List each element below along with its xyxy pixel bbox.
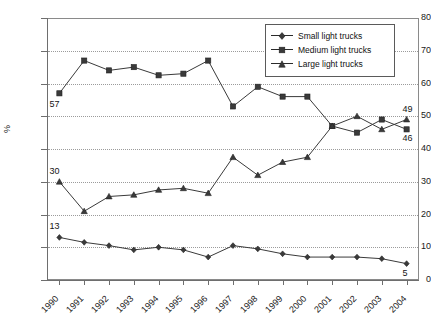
y-tick-mark	[41, 18, 47, 19]
x-tick-label: 2003	[362, 293, 383, 314]
x-tick-label: 1997	[213, 293, 234, 314]
y-tick-label: 0	[389, 274, 431, 284]
y-axis-line	[47, 18, 48, 280]
x-tick-label: 1999	[263, 293, 284, 314]
x-tick-mark	[332, 280, 333, 285]
gridline	[48, 149, 418, 150]
y-tick-label: 10	[389, 241, 431, 251]
y-tick-mark	[41, 84, 47, 85]
y-tick-mark	[41, 149, 47, 150]
x-tick-label: 1994	[139, 293, 160, 314]
data-point-label: 13	[49, 221, 59, 231]
legend-label-large: Large light trucks	[298, 59, 363, 69]
y-tick-label: 20	[389, 209, 431, 219]
y-tick-label: 80	[389, 12, 431, 22]
legend-label-medium: Medium light trucks	[298, 45, 371, 55]
y-tick-mark	[41, 182, 47, 183]
gridline	[48, 215, 418, 216]
x-tick-mark	[283, 280, 284, 285]
x-tick-label: 2001	[312, 293, 333, 314]
x-tick-label: 1993	[114, 293, 135, 314]
square-marker-icon	[271, 44, 293, 56]
x-tick-label: 1996	[188, 293, 209, 314]
y-tick-mark	[41, 116, 47, 117]
x-tick-mark	[84, 280, 85, 285]
data-point-label: 30	[49, 166, 59, 176]
diamond-marker-icon	[271, 30, 293, 42]
data-point-label: 46	[403, 133, 413, 143]
legend-item-medium[interactable]: Medium light trucks	[271, 43, 389, 57]
x-tick-label: 2002	[337, 293, 358, 314]
x-tick-mark	[357, 280, 358, 285]
x-tick-mark	[382, 280, 383, 285]
x-tick-mark	[233, 280, 234, 285]
triangle-marker-icon	[271, 58, 293, 70]
y-tick-label: 30	[389, 176, 431, 186]
x-tick-mark	[109, 280, 110, 285]
y-tick-mark	[41, 247, 47, 248]
x-tick-mark	[208, 280, 209, 285]
x-tick-mark	[59, 280, 60, 285]
data-point-label: 5	[403, 268, 408, 278]
x-tick-mark	[407, 280, 408, 285]
legend-label-small: Small light trucks	[298, 31, 362, 41]
y-axis-title: %	[2, 125, 12, 133]
x-tick-label: 1991	[64, 293, 85, 314]
legend: Small light trucks Medium light trucks L…	[265, 24, 395, 77]
y-tick-mark	[41, 51, 47, 52]
x-tick-mark	[258, 280, 259, 285]
y-tick-label: 40	[389, 143, 431, 153]
gridline	[48, 247, 418, 248]
x-tick-label: 2000	[288, 293, 309, 314]
x-tick-mark	[134, 280, 135, 285]
y-tick-label: 60	[389, 78, 431, 88]
y-tick-label: 70	[389, 45, 431, 55]
y-tick-mark	[41, 280, 47, 281]
x-tick-label: 1995	[164, 293, 185, 314]
x-tick-label: 1990	[40, 293, 61, 314]
y-tick-mark	[41, 215, 47, 216]
gridline	[48, 182, 418, 183]
data-point-label: 49	[403, 104, 413, 114]
data-point-label: 57	[49, 99, 59, 109]
x-tick-label: 1992	[89, 293, 110, 314]
x-tick-label: 2004	[387, 293, 408, 314]
gridline	[48, 84, 418, 85]
x-tick-mark	[159, 280, 160, 285]
x-tick-mark	[183, 280, 184, 285]
legend-item-small[interactable]: Small light trucks	[271, 29, 389, 43]
gridline	[48, 116, 418, 117]
line-chart: 01020304050607080 1990199119921993199419…	[0, 0, 431, 321]
legend-item-large[interactable]: Large light trucks	[271, 57, 389, 71]
x-tick-label: 1998	[238, 293, 259, 314]
x-tick-mark	[307, 280, 308, 285]
